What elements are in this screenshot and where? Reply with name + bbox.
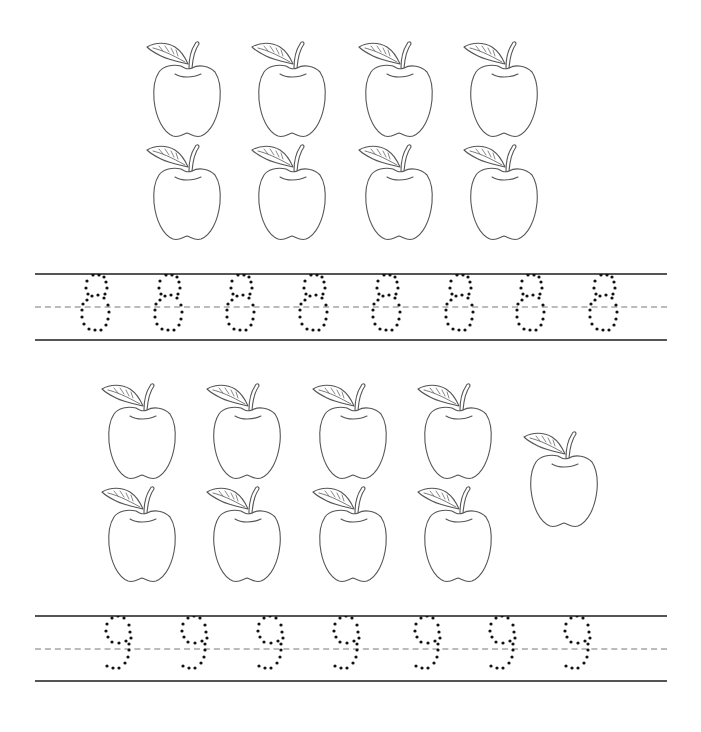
dotted-digit-8-tracing[interactable]: [366, 274, 406, 338]
midline-dashed-guide: [35, 306, 667, 308]
dotted-digit-8-tracing[interactable]: [293, 274, 333, 338]
apple-icon: [462, 38, 546, 140]
dotted-digit-8-tracing[interactable]: [439, 274, 479, 338]
bottom-guide-line: [35, 680, 667, 682]
apple-icon: [311, 380, 395, 482]
apple-icon: [250, 38, 334, 140]
dotted-digit-8-tracing[interactable]: [583, 274, 623, 338]
dotted-digit-9-tracing[interactable]: [171, 616, 211, 680]
apple-icon: [522, 428, 606, 530]
top-guide-line: [35, 273, 667, 275]
apple-icon: [250, 141, 334, 243]
dotted-digit-9-tracing[interactable]: [323, 616, 363, 680]
apple-icon: [357, 141, 441, 243]
dotted-digit-9-tracing[interactable]: [247, 616, 287, 680]
dotted-digit-9-tracing[interactable]: [479, 616, 519, 680]
dotted-digit-8-tracing[interactable]: [220, 274, 260, 338]
dotted-digit-9-tracing[interactable]: [404, 616, 444, 680]
bottom-guide-line: [35, 339, 667, 341]
apple-icon: [416, 483, 500, 585]
apple-icon: [145, 38, 229, 140]
apple-icon: [357, 38, 441, 140]
dotted-digit-8-tracing[interactable]: [75, 274, 115, 338]
apple-icon: [416, 380, 500, 482]
dotted-digit-9-tracing[interactable]: [554, 616, 594, 680]
dotted-digit-8-tracing[interactable]: [148, 274, 188, 338]
apple-icon: [100, 483, 184, 585]
dotted-digit-9-tracing[interactable]: [95, 616, 135, 680]
apple-icon: [100, 380, 184, 482]
apple-icon: [205, 483, 289, 585]
apple-icon: [311, 483, 395, 585]
apple-icon: [145, 141, 229, 243]
apple-icon: [205, 380, 289, 482]
apple-icon: [462, 141, 546, 243]
dotted-digit-8-tracing[interactable]: [510, 274, 550, 338]
